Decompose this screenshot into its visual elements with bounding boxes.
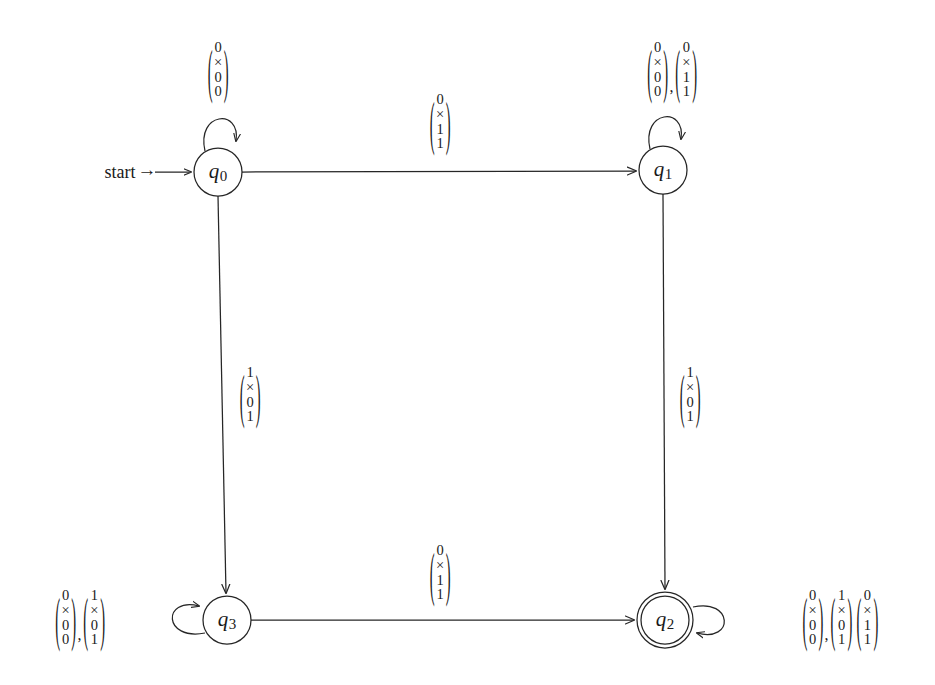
vector-entry: 1 — [436, 573, 443, 588]
vector-entry: × — [837, 603, 845, 618]
vector-entry: 0 — [214, 70, 221, 85]
vector-entry: × — [863, 603, 871, 618]
vector-entries: 0×11 — [862, 588, 873, 647]
vector-entry: × — [90, 603, 98, 618]
column-vector: (0×11) — [676, 40, 698, 99]
vector-entry: × — [809, 603, 817, 618]
vector-entry: 0 — [214, 85, 221, 100]
vector-entries: 0×00 — [652, 40, 663, 99]
left-paren: ( — [55, 588, 60, 648]
vector-entry: 0 — [864, 588, 871, 603]
vector-entry: 0 — [436, 92, 443, 107]
right-paren: ) — [446, 543, 451, 603]
vector-entry: 1 — [838, 588, 845, 603]
state-node-q3[interactable] — [203, 596, 251, 644]
right-paren: ) — [71, 588, 76, 648]
transition-q1-q2 — [663, 194, 665, 589]
vector-entry: × — [436, 558, 444, 573]
vector-entries: 0×11 — [434, 92, 445, 151]
column-vector: (1×01) — [84, 588, 106, 647]
self-loop-q3 — [172, 605, 205, 634]
vector-entry: 0 — [654, 85, 661, 100]
vector-entries: 0×00 — [60, 588, 71, 647]
column-vector: (1×01) — [239, 365, 261, 424]
left-paren: ( — [84, 588, 89, 648]
left-paren: ( — [676, 40, 681, 100]
vector-separator: , — [825, 627, 829, 648]
vector-entry: × — [246, 380, 254, 395]
vector-separator: , — [78, 627, 82, 648]
vector-entry: × — [686, 380, 694, 395]
left-paren: ( — [239, 365, 244, 425]
vector-entry: × — [682, 55, 690, 70]
start-label: start — [105, 162, 136, 183]
self-loop-q0 — [204, 119, 237, 151]
column-vector: (0×11) — [429, 543, 451, 602]
right-paren: ) — [100, 588, 105, 648]
vector-entry: 0 — [62, 633, 69, 648]
vector-entries: 0×11 — [434, 543, 445, 602]
column-vector: (0×11) — [429, 92, 451, 151]
transition-label-q0-q1: (0×11) — [429, 92, 451, 151]
vector-entry: 0 — [686, 395, 693, 410]
vector-entry: × — [214, 55, 222, 70]
column-vector: (0×00) — [647, 40, 669, 99]
transition-label-q0-self: (0×00) — [207, 40, 229, 99]
state-node-q2[interactable] — [641, 596, 689, 644]
column-vector: (0×00) — [207, 40, 229, 99]
right-paren: ) — [663, 40, 668, 100]
transition-q0-q3 — [218, 196, 226, 593]
right-paren: ) — [873, 588, 878, 648]
left-paren: ( — [679, 365, 684, 425]
vector-entry: 0 — [214, 40, 221, 55]
transition-label-q0-q3: (1×01) — [239, 365, 261, 424]
vector-entry: 0 — [62, 618, 69, 633]
vector-entries: 1×01 — [836, 588, 847, 647]
vector-entries: 0×00 — [212, 40, 223, 99]
vector-entry: 1 — [91, 588, 98, 603]
column-vector: (0×11) — [856, 588, 878, 647]
vector-entries: 1×01 — [89, 588, 100, 647]
self-loop-q2 — [693, 606, 724, 635]
column-vector: (0×00) — [55, 588, 77, 647]
vector-entry: 1 — [683, 70, 690, 85]
left-paren: ( — [429, 92, 434, 152]
vector-entry: 0 — [838, 618, 845, 633]
transition-label-q1-self: (0×00),(0×11) — [647, 40, 698, 99]
vector-entry: × — [653, 55, 661, 70]
right-paren: ) — [818, 588, 823, 648]
vector-entry: 1 — [246, 365, 253, 380]
vector-entry: 1 — [246, 410, 253, 425]
column-vector: (1×01) — [831, 588, 853, 647]
vector-separator: , — [670, 79, 674, 100]
vector-entry: × — [61, 603, 69, 618]
column-vector: (1×01) — [679, 365, 701, 424]
vector-entry: 0 — [683, 40, 690, 55]
left-paren: ( — [207, 40, 212, 100]
vector-entry: 1 — [838, 633, 845, 648]
self-loop-q1 — [649, 117, 682, 149]
vector-entry: 1 — [864, 633, 871, 648]
diagram-canvas — [0, 0, 935, 685]
vector-entry: 0 — [654, 70, 661, 85]
right-paren: ) — [696, 365, 701, 425]
left-paren: ( — [857, 588, 862, 648]
left-paren: ( — [647, 40, 652, 100]
start-arrow-glyph: → — [138, 159, 157, 181]
vector-entry: 1 — [686, 410, 693, 425]
state-node-q1[interactable] — [639, 146, 687, 194]
vector-entries: 0×11 — [681, 40, 692, 99]
vector-entry: 1 — [864, 618, 871, 633]
vector-entry: 0 — [809, 633, 816, 648]
vector-entry: 1 — [436, 588, 443, 603]
vector-entry: 1 — [436, 137, 443, 152]
vector-entry: 0 — [246, 395, 253, 410]
right-paren: ) — [446, 92, 451, 152]
left-paren: ( — [429, 543, 434, 603]
vector-entry: 0 — [436, 543, 443, 558]
transition-label-q3-self: (0×00),(1×01) — [55, 588, 106, 647]
vector-entry: 1 — [436, 122, 443, 137]
state-node-q0[interactable] — [194, 148, 242, 196]
vector-entry: 0 — [654, 40, 661, 55]
transition-label-q3-q2: (0×11) — [429, 543, 451, 602]
